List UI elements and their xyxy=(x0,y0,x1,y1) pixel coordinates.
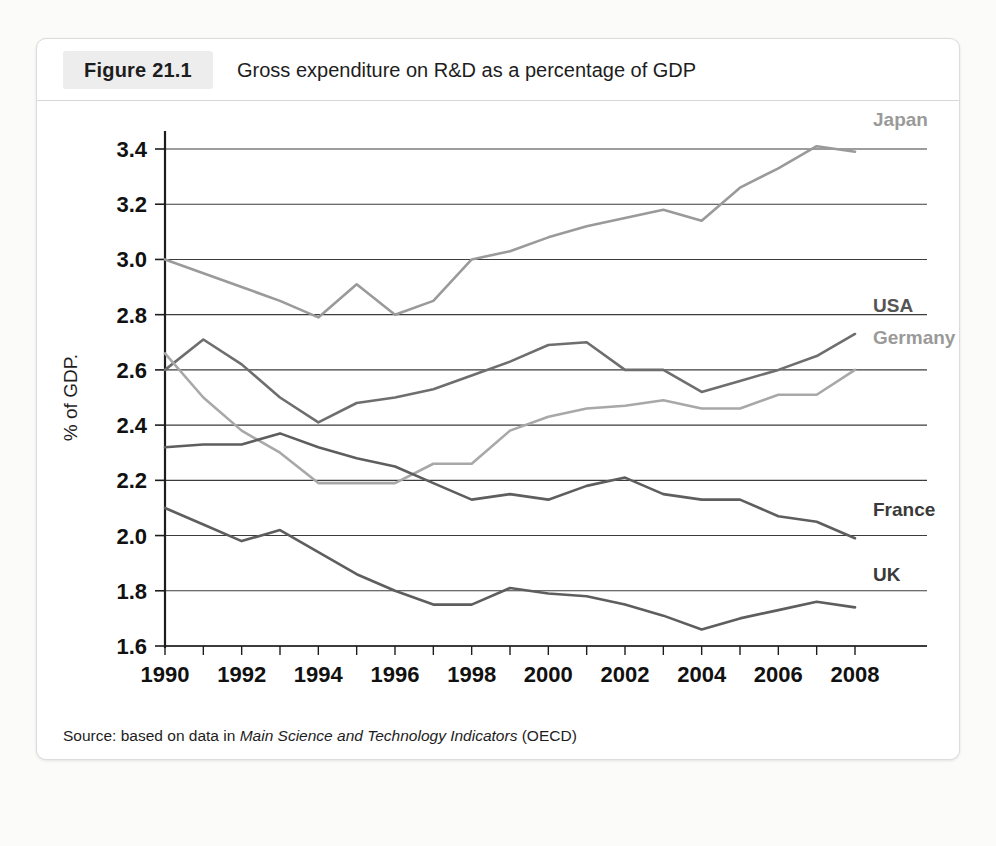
y-tick-2.2: 2.2 xyxy=(116,468,147,493)
x-tick-2004: 2004 xyxy=(677,662,727,687)
series-line-japan xyxy=(165,146,855,317)
x-tick-labels: 1990199219941996199820002002200420062008 xyxy=(141,662,880,687)
x-tick-1994: 1994 xyxy=(294,662,344,687)
series-lines xyxy=(165,146,855,629)
series-line-uk xyxy=(165,508,855,629)
series-label-usa: USA xyxy=(873,295,913,316)
y-tick-2.0: 2.0 xyxy=(116,524,147,549)
x-tick-2008: 2008 xyxy=(831,662,880,687)
series-line-france xyxy=(165,433,855,538)
series-label-germany: Germany xyxy=(873,327,956,348)
source-suffix: (OECD) xyxy=(517,727,576,744)
x-tick-1996: 1996 xyxy=(371,662,420,687)
figure-header: Figure 21.1 Gross expenditure on R&D as … xyxy=(37,39,959,101)
x-axis xyxy=(155,149,927,655)
source-publication: Main Science and Technology Indicators xyxy=(240,727,518,744)
y-tick-2.4: 2.4 xyxy=(116,413,147,438)
series-label-uk: UK xyxy=(873,564,901,585)
chart-plot-area: 1.61.82.02.22.42.62.83.03.23.4 199019921… xyxy=(37,101,961,701)
line-chart: 1.61.82.02.22.42.62.83.03.23.4 199019921… xyxy=(37,101,961,701)
figure-card: Figure 21.1 Gross expenditure on R&D as … xyxy=(36,38,960,760)
x-tick-1992: 1992 xyxy=(217,662,266,687)
y-tick-labels: 1.61.82.02.22.42.62.83.03.23.4 xyxy=(116,137,147,659)
y-tick-2.8: 2.8 xyxy=(116,303,147,328)
y-tick-3.2: 3.2 xyxy=(116,192,147,217)
series-label-japan: Japan xyxy=(873,109,928,130)
series-labels: JapanUSAGermanyFranceUK xyxy=(873,109,956,586)
x-tick-2002: 2002 xyxy=(601,662,650,687)
y-tick-3.4: 3.4 xyxy=(116,137,147,162)
x-tick-2000: 2000 xyxy=(524,662,573,687)
figure-title: Gross expenditure on R&D as a percentage… xyxy=(237,51,696,89)
series-line-usa xyxy=(165,334,855,422)
series-label-france: France xyxy=(873,499,935,520)
figure-source: Source: based on data in Main Science an… xyxy=(63,727,577,745)
y-tick-1.8: 1.8 xyxy=(116,579,147,604)
series-line-germany xyxy=(165,353,855,483)
y-tick-2.6: 2.6 xyxy=(116,358,147,383)
figure-number-badge: Figure 21.1 xyxy=(63,51,213,89)
x-tick-1998: 1998 xyxy=(447,662,496,687)
x-tick-1990: 1990 xyxy=(141,662,190,687)
y-tick-1.6: 1.6 xyxy=(116,634,147,659)
source-prefix: Source: based on data in xyxy=(63,727,240,744)
y-tick-3.0: 3.0 xyxy=(116,247,147,272)
y-axis-title: % of GDP. xyxy=(60,354,81,441)
x-tick-2006: 2006 xyxy=(754,662,803,687)
figure-number-label: Figure 21.1 xyxy=(63,51,213,89)
page-root: Figure 21.1 Gross expenditure on R&D as … xyxy=(0,0,996,846)
